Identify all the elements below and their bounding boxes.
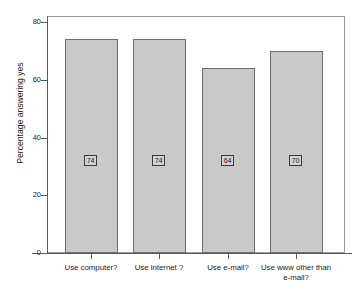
y-tick-label-80: 80 [19,18,41,26]
y-tick-label-20: 20 [19,191,41,199]
bar-value-label-4: 70 [289,155,302,166]
y-tick-mark-80 [41,22,47,23]
bar-value-label-3: 64 [221,155,234,166]
y-tick-label-40: 40 [19,134,41,142]
bar-value-label-2: 74 [152,155,165,166]
y-axis-line [47,16,48,253]
bar-use-internet [133,39,186,253]
bar-use-computer [65,39,118,253]
x-tick-label-use-www-other: Use www other than e-mail? [246,263,346,282]
bar-use-www-other [270,51,323,253]
y-tick-mark-40 [41,138,47,139]
bar-chart-figure: Percentage answering yes 0 20 40 60 80 7… [0,0,359,299]
x-tick-mark-1 [91,253,92,259]
x-axis-line [32,253,352,254]
x-tick-mark-4 [296,253,297,259]
y-tick-label-60: 60 [19,76,41,84]
x-tick-mark-3 [228,253,229,259]
y-tick-mark-20 [41,195,47,196]
bar-value-label-1: 74 [84,155,97,166]
y-axis-title: Percentage answering yes [15,33,25,193]
x-tick-mark-2 [159,253,160,259]
y-tick-mark-60 [41,80,47,81]
